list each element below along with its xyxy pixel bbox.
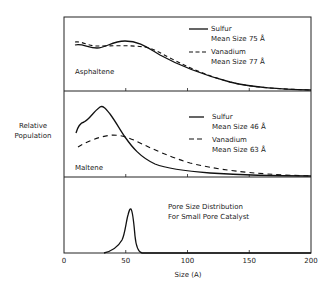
- maltene-vanadium-curve: [78, 135, 311, 176]
- x-tick-200: 200: [304, 257, 317, 265]
- x-tick-50: 50: [121, 257, 130, 265]
- y-axis-label-line1: Relative: [19, 122, 47, 130]
- legend-sulfur-mean-size: Mean Size 75 Å: [211, 34, 265, 43]
- legend-sulfur-mean-size: Mean Size 46 Å: [212, 122, 266, 131]
- legend-sulfur-label: Sulfur: [212, 113, 233, 121]
- pore-size-annotation-line2: For Small Pore Catalyst: [168, 213, 249, 221]
- x-tick-150: 150: [243, 257, 256, 265]
- legend-vanadium-mean-size: Mean Size 77 Å: [211, 57, 265, 66]
- chart-figure: Sulfur Mean Size 75 Å Vanadium Mean Size…: [0, 0, 331, 294]
- legend-vanadium-label: Vanadium: [211, 48, 246, 56]
- x-axis-label: Size (A): [175, 271, 202, 279]
- panel-label-asphaltene: Asphaltene: [75, 68, 114, 76]
- panel-label-maltene: Maltene: [75, 164, 103, 172]
- y-axis-label-line2: Population: [15, 132, 52, 140]
- legend-vanadium-mean-size: Mean Size 63 Å: [212, 145, 266, 154]
- pore-size-annotation-line1: Pore Size Distribution: [168, 203, 243, 211]
- x-tick-100: 100: [181, 257, 194, 265]
- x-tick-0: 0: [62, 257, 66, 265]
- legend-sulfur-label: Sulfur: [211, 25, 232, 33]
- legend-vanadium-label: Vanadium: [212, 136, 247, 144]
- asphaltene-sulfur-curve: [75, 41, 311, 90]
- asphaltene-vanadium-curve: [75, 42, 311, 90]
